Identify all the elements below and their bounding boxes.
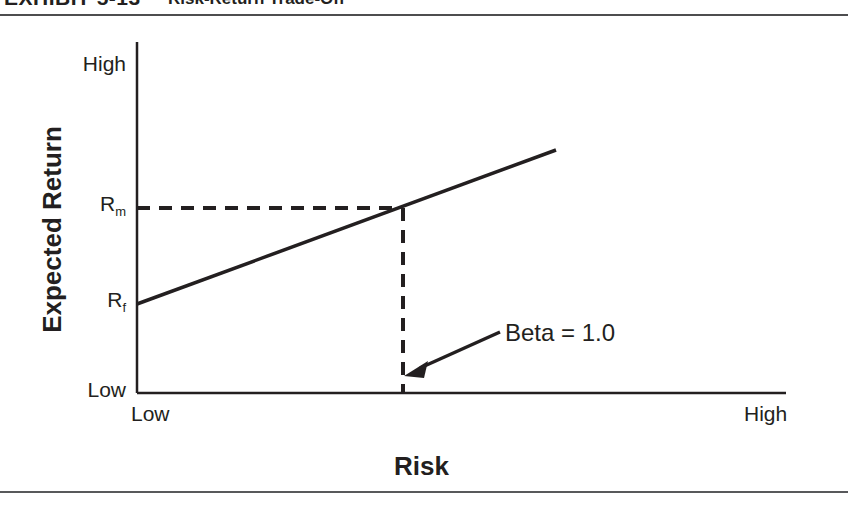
y-axis-title: Expected Return [37, 115, 68, 345]
exhibit-number: EXHIBIT 5-13 [4, 0, 141, 10]
security-market-line [137, 150, 556, 304]
exhibit-title: Risk-Return Trade-Off [168, 0, 345, 9]
x-tick-high: High [744, 402, 787, 426]
y-tick-rm-subscript: m [115, 204, 126, 219]
y-tick-rf-base: R [107, 288, 122, 311]
risk-return-chart: Expected Return High Rm Rf Low Low High … [0, 16, 848, 491]
chart-canvas [0, 16, 848, 491]
y-tick-low: Low [70, 378, 126, 402]
y-tick-rm-base: R [100, 192, 115, 215]
y-tick-rf-subscript: f [122, 300, 126, 315]
y-tick-high: High [70, 52, 126, 76]
beta-annotation-label: Beta = 1.0 [505, 319, 615, 347]
y-tick-rm: Rm [88, 192, 126, 219]
footer-divider [0, 491, 848, 493]
x-tick-low: Low [131, 402, 170, 426]
x-axis-title: Risk [394, 451, 449, 482]
beta-callout-arrow [404, 332, 500, 378]
y-tick-rf: Rf [88, 288, 126, 315]
